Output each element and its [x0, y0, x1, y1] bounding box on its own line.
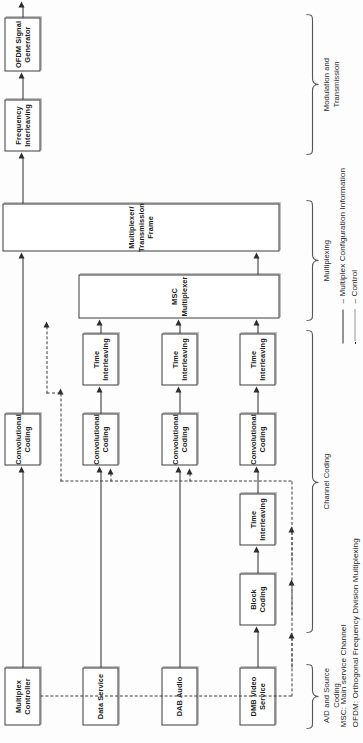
connector-convaudio-to-ti: [179, 391, 180, 413]
legend-abbrev-msc: MSC: Main service Channel: [338, 624, 347, 727]
arrowhead-convmc-to-muxframe: [18, 252, 24, 258]
connector-freqint-to-ofdm: [22, 77, 23, 99]
legend-solid-label: – Multiplex Configuration Information: [337, 167, 346, 303]
connector-convvideo-to-ti2: [257, 391, 258, 413]
arrowhead-blockcoding-to-ti1: [253, 546, 259, 552]
block-convolutional-coding-controller: Convolutional Coding: [4, 413, 40, 465]
brace-multiplexing: [305, 199, 319, 321]
block-time-interleaving-data: Time Interleaving: [82, 333, 118, 385]
arrowhead-ti2-to-mscmux: [253, 319, 259, 325]
brace-source-coding: [305, 663, 319, 729]
block-time-interleaving-video-2: Time Interleaving: [239, 333, 275, 385]
block-multiplex-controller: Multiplex Controller: [4, 667, 40, 725]
legend-abbrev-ofdm: OFDM: Orthogonal Frequency Division Mult…: [350, 538, 359, 727]
control-tap-mscmux-riser: [46, 392, 60, 393]
block-convolutional-coding-audio: Convolutional Coding: [161, 413, 197, 465]
block-time-interleaving-audio: Time Interleaving: [161, 333, 197, 385]
connector-convmc-to-muxframe: [22, 257, 23, 413]
group-label-modulation: Modulation and Transmission: [321, 39, 341, 129]
arrowhead-convaudio-to-ti: [175, 386, 181, 392]
arrowhead-control-conv-data: [107, 468, 113, 474]
block-convolutional-coding-data: Convolutional Coding: [82, 413, 118, 465]
arrowhead-tiaudio-to-mscmux: [175, 319, 181, 325]
group-label-multiplexing: Multiplexing: [321, 215, 331, 305]
legend-solid-line-swatch: [342, 309, 343, 343]
block-time-interleaving-video-1: Time Interleaving: [239, 493, 275, 545]
arrowhead-control-conv-audio: [186, 468, 192, 474]
connector-dabaudio-to-conv: [179, 471, 180, 667]
legend-dotted-line-swatch: [354, 309, 355, 343]
block-multiplexer-transmission-frame: Multiplexer/ Transmission Frame: [2, 203, 279, 251]
connector-convdata-to-ti: [100, 391, 101, 413]
block-block-coding: Block Coding: [239, 573, 275, 625]
block-ofdm-signal-generator: OFDM Signal Generator: [4, 17, 40, 71]
control-bus-tap-base: [291, 481, 292, 696]
group-label-channel-coding: Channel Coding: [321, 431, 331, 531]
block-convolutional-coding-video: Convolutional Coding: [239, 413, 275, 465]
arrowhead-mc-to-conv: [18, 466, 24, 472]
connector-dataservice-to-conv: [100, 471, 101, 667]
arrowhead-convdata-to-ti: [96, 386, 102, 392]
brace-channel-coding: [305, 329, 319, 633]
arrowhead-muxframe-to-freqint: [18, 152, 24, 158]
arrowhead-tidata-to-mscmux: [96, 319, 102, 325]
block-frequency-interleaving: Frequency Interleaving: [4, 99, 40, 151]
block-msc-multiplexer: MSC Multiplexer: [78, 274, 279, 318]
connector-ti1-to-conv: [257, 471, 258, 493]
block-diagram-figure: Multiplex Controller Data Service DAB Au…: [0, 0, 363, 743]
arrowhead-ti1-to-conv: [253, 466, 259, 472]
arrowhead-mscmux-to-muxframe: [253, 252, 259, 258]
arrowhead-dabaudio-to-conv: [175, 466, 181, 472]
control-tap-mscmux: [46, 326, 47, 393]
arrowhead-convvideo-to-ti2: [253, 386, 259, 392]
control-bus-riser: [40, 695, 291, 696]
control-bus-vertical: [60, 480, 291, 481]
connector-blockcoding-to-ti1: [257, 551, 258, 573]
arrowhead-control-mscmux: [43, 321, 49, 327]
arrowhead-dmbvideo-to-blockcoding: [253, 626, 259, 632]
connector-mc-to-conv: [22, 471, 23, 667]
connector-muxframe-to-freqint: [22, 157, 23, 203]
connector-dmbvideo-to-blockcoding: [257, 631, 258, 667]
arrowhead-freqint-to-ofdm: [18, 72, 24, 78]
control-tap-ti-data: [60, 393, 61, 481]
arrowhead-dataservice-to-conv: [96, 466, 102, 472]
arrowhead-ofdm-output: [18, 1, 24, 7]
connector-mscmux-to-muxframe: [257, 257, 258, 274]
brace-modulation: [305, 13, 319, 155]
legend-dotted-label: – Control: [349, 269, 358, 303]
